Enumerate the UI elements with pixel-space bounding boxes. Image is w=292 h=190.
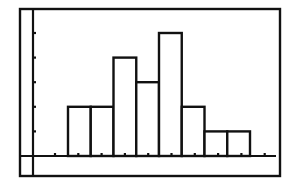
histogram-bar [182,107,205,156]
histogram-plot [0,0,292,190]
histogram-bar [91,107,114,156]
histogram-bar [136,82,159,156]
histogram-bar [68,107,91,156]
histogram-bar [227,131,250,156]
histogram-bar [114,58,137,156]
histogram-bar [205,131,228,156]
histogram-bars [68,33,250,156]
histogram-bar [159,33,182,156]
